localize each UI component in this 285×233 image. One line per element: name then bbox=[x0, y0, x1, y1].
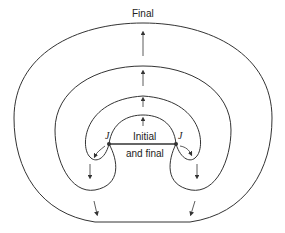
arrow-down-right-2 bbox=[191, 201, 195, 214]
and-final-label: and final bbox=[126, 148, 164, 159]
arrow-curl-right bbox=[180, 146, 191, 154]
arrow-down-left-2 bbox=[94, 201, 97, 214]
junction-point-right bbox=[174, 142, 178, 146]
junction-label-right: J bbox=[178, 130, 182, 141]
junction-point-left bbox=[107, 142, 111, 146]
wavefront-diagram bbox=[0, 0, 285, 233]
junction-label-left: J bbox=[105, 130, 109, 141]
initial-label: Initial bbox=[133, 131, 156, 142]
arrow-curl-left bbox=[95, 146, 105, 156]
final-label: Final bbox=[132, 8, 154, 19]
